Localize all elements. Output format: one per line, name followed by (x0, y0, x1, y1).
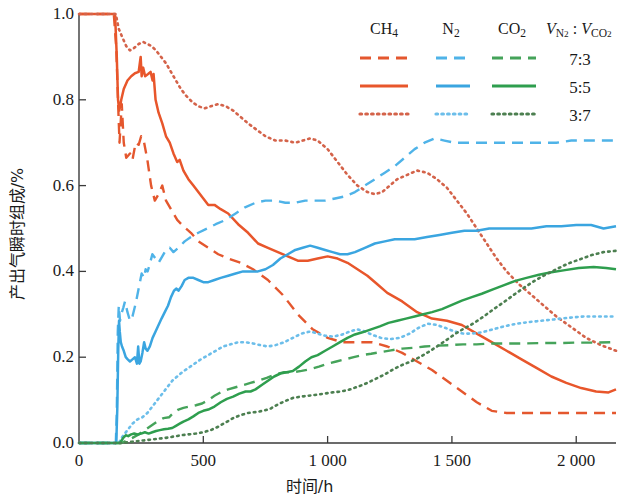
y-axis-title: 产出气瞬时组成/% (4, 134, 28, 334)
y-axis-ticks: 0.0 0.2 0.4 0.6 0.8 1.0 (22, 0, 74, 497)
series-line-co2-7-3 (79, 342, 616, 443)
series-line-n2-3-7 (79, 316, 616, 443)
series-line-n2-7-3 (79, 138, 616, 443)
x-tick-label: 1 500 (412, 452, 492, 469)
x-tick-label: 0 (39, 452, 119, 469)
y-tick-label: 0.8 (30, 91, 74, 108)
series-line-co2-5-5 (79, 267, 616, 443)
x-tick-label: 1 000 (288, 452, 368, 469)
legend-line-swatches (352, 20, 614, 126)
chart-figure: 0.0 0.2 0.4 0.6 0.8 1.0 0 500 1 000 1 50… (0, 0, 619, 497)
series-line-co2-3-7 (79, 251, 616, 443)
x-tick-label: 500 (163, 452, 243, 469)
x-tick-label: 2 000 (536, 452, 616, 469)
y-tick-label: 0.0 (30, 434, 74, 451)
y-tick-label: 1.0 (30, 5, 74, 22)
series-line-n2-5-5 (79, 225, 616, 443)
x-axis-title: 时间/h (0, 473, 619, 497)
y-tick-label: 0.6 (30, 177, 74, 194)
y-tick-label: 0.2 (30, 348, 74, 365)
chart-legend: CH4 N2 CO2 VN2 : VCO2 7:3 5:5 3:7 (352, 20, 614, 126)
y-tick-label: 0.4 (30, 262, 74, 279)
